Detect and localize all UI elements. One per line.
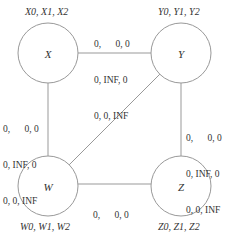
matrix-row: 0, INF, 0 (94, 74, 130, 86)
node-w-label: W (43, 181, 52, 193)
node-z-label: Z (178, 181, 184, 193)
matrix-row: 0, 0, 0 (186, 132, 222, 144)
edge-y-z-matrix: 0, 0, 0 0, INF, 0 0, 0, INF (186, 108, 222, 228)
node-w-caption: W0, W1, W2 (20, 221, 70, 233)
node-x-label: X (45, 48, 52, 60)
matrix-row: 0, 0, 0 (3, 123, 39, 135)
edge-w-z-matrix: 0, 0, 0 0, INF, 0 0, 0, INF (93, 185, 129, 237)
node-y-caption: Y0, Y1, Y2 (158, 6, 200, 18)
matrix-row: 0, 0, INF (186, 204, 222, 216)
matrix-row: 0, 0, INF (3, 195, 39, 207)
matrix-row: 0, 0, INF (94, 110, 130, 122)
matrix-row: 0, 0, 0 (93, 209, 129, 221)
matrix-row: 0, 0, 0 (94, 38, 130, 50)
edge-x-y-matrix: 0, 0, 0 0, INF, 0 0, 0, INF (94, 14, 130, 134)
node-y-label: Y (178, 48, 184, 60)
matrix-row: 0, INF, 0 (186, 168, 222, 180)
matrix-row: 0, INF, 0 (3, 159, 39, 171)
edge-x-w-matrix: 0, 0, 0 0, INF, 0 0, 0, INF (3, 99, 39, 219)
node-x-caption: X0, X1, X2 (25, 6, 68, 18)
